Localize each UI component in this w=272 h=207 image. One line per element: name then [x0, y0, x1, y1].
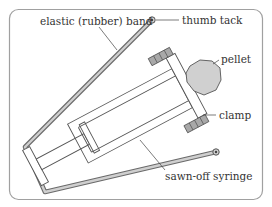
label-syringe: sawn-off syringe — [165, 170, 252, 182]
label-clamp: clamp — [219, 109, 251, 121]
label-pellet: pellet — [221, 53, 252, 65]
catapult-diagram: elastic (rubber) band thumb tack pellet … — [0, 0, 272, 207]
label-thumb-tack: thumb tack — [182, 14, 243, 26]
label-elastic-band: elastic (rubber) band — [40, 15, 153, 27]
thumb-tack-bottom-icon — [213, 149, 219, 155]
